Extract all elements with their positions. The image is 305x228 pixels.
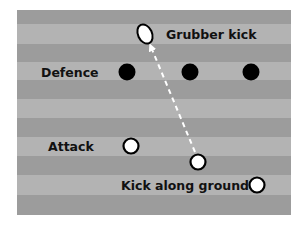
pitch-stripe (17, 118, 291, 137)
defence-label: Defence (41, 65, 99, 80)
pitch-stripe (17, 195, 291, 215)
attacker-marker (250, 178, 265, 193)
defender-marker (243, 64, 260, 81)
pitch-stripe (17, 44, 291, 62)
pitch-stripe (17, 156, 291, 175)
pitch-stripe (17, 99, 291, 118)
kick-along-ground-label: Kick along ground (121, 178, 249, 193)
pitch-stripe (17, 10, 291, 24)
attacker-marker (124, 139, 139, 154)
grubber-kick-label: Grubber kick (166, 27, 257, 42)
defender-marker (119, 64, 136, 81)
grubber-kick-diagram: Grubber kick Defence Attack Kick along g… (0, 0, 305, 228)
attack-label: Attack (48, 139, 94, 154)
pitch-stripe (17, 80, 291, 99)
defender-marker (182, 64, 199, 81)
attacker-marker (191, 155, 206, 170)
